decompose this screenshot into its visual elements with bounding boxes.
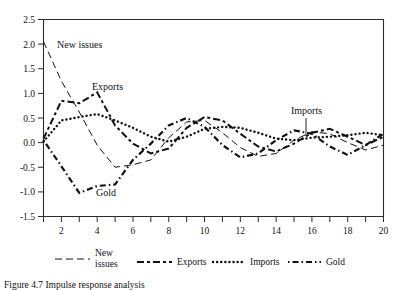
figure-caption: Figure 4.7 Impulse response analysis: [4, 280, 145, 290]
annotation-imports: Imports: [291, 105, 322, 116]
y-tick-label: 1.5: [23, 64, 35, 74]
series-line-exports: [44, 92, 384, 153]
y-tick-label: 2.0: [23, 40, 35, 50]
legend-item-new-issues[interactable]: New issues: [55, 248, 118, 269]
annotation-exports: Exports: [92, 81, 123, 92]
y-axis-labels: 2.5 2.0 1.5 1.0 0.5 0.0 -0.5 -1.0 -1.5: [20, 15, 35, 222]
legend-label-imports: Imports: [250, 257, 280, 267]
legend-item-exports[interactable]: Exports: [137, 257, 207, 267]
y-tick-label: -1.0: [20, 187, 35, 197]
y-tick-label: -1.5: [20, 212, 35, 222]
x-tick-label: 10: [200, 226, 210, 236]
legend: New issues Exports Imports Gold: [55, 248, 345, 269]
legend-label-exports: Exports: [177, 257, 207, 267]
legend-item-imports[interactable]: Imports: [213, 257, 280, 267]
x-axis-ticks: [44, 217, 384, 223]
legend-item-gold[interactable]: Gold: [288, 257, 345, 267]
legend-label-new-issues-line2: issues: [95, 259, 118, 269]
annotation-gold: Gold: [96, 187, 116, 198]
y-axis-ticks: [38, 20, 44, 217]
x-tick-label: 2: [59, 226, 64, 236]
x-tick-label: 18: [343, 226, 353, 236]
y-tick-label: -0.5: [20, 163, 35, 173]
y-tick-label: 0.0: [23, 138, 35, 148]
x-tick-label: 16: [307, 226, 317, 236]
x-tick-label: 6: [131, 226, 136, 236]
annotation-new-issues: New issues: [57, 39, 102, 50]
y-tick-label: 0.5: [23, 114, 35, 124]
y-tick-label: 2.5: [23, 15, 35, 25]
x-axis-labels: 2468101214161820: [59, 226, 388, 236]
x-tick-label: 12: [236, 226, 246, 236]
figure-container: 2.5 2.0 1.5 1.0 0.5 0.0 -0.5 -1.0 -1.5 2…: [0, 0, 401, 290]
legend-label-new-issues-line1: New: [95, 248, 113, 258]
chart-svg: 2.5 2.0 1.5 1.0 0.5 0.0 -0.5 -1.0 -1.5 2…: [0, 0, 401, 290]
y-tick-label: 1.0: [23, 89, 35, 99]
x-tick-label: 4: [95, 226, 100, 236]
x-tick-label: 20: [379, 226, 389, 236]
legend-label-gold: Gold: [326, 257, 345, 267]
x-tick-label: 8: [166, 226, 171, 236]
x-tick-label: 14: [271, 226, 281, 236]
data-series-group: [44, 42, 384, 193]
